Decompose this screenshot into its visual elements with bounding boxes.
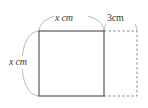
- top-side-label: x cm: [55, 13, 73, 23]
- top-side-label-text: x cm: [55, 12, 73, 23]
- geometry-figure: x cm x cm 3cm: [0, 0, 148, 108]
- extension-width-label-text: 3cm: [107, 12, 124, 23]
- solid-square-outline: [39, 31, 104, 96]
- left-side-label-text: x cm: [9, 56, 27, 67]
- left-side-label: x cm: [9, 57, 27, 67]
- extension-width-label: 3cm: [107, 13, 124, 23]
- figure-canvas: [0, 0, 148, 108]
- dashed-rectangle-outline: [104, 31, 137, 96]
